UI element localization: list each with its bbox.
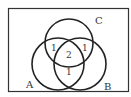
region-abc-value: 2: [66, 50, 72, 60]
region-ab-value: 1: [66, 67, 72, 77]
set-label-b: B: [104, 81, 111, 92]
set-label-c: C: [95, 15, 103, 26]
region-bc-value: 1: [82, 43, 88, 53]
venn-diagram: C A B 1 1 2 1: [0, 0, 131, 97]
region-ac-value: 1: [51, 43, 57, 53]
set-label-a: A: [25, 79, 34, 90]
